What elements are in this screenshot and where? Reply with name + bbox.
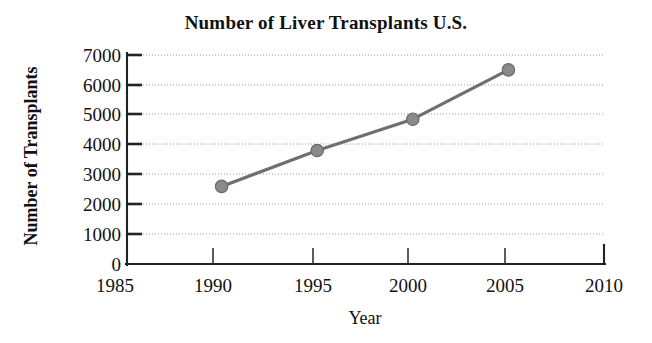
gridlines <box>140 55 604 234</box>
x-tick-marks <box>213 248 505 264</box>
data-point-2000 <box>407 113 419 125</box>
y-tick-marks <box>127 55 142 234</box>
y-tick-label-0: 0 <box>112 254 122 275</box>
y-tick-label-2000: 2000 <box>83 194 121 215</box>
x-tick-label-2010: 2010 <box>585 275 623 296</box>
y-tick-label-5000: 5000 <box>83 104 121 125</box>
data-point-2005 <box>502 64 514 76</box>
chart-figure: Number of Liver Transplants U.S. Number … <box>0 0 652 343</box>
x-tick-labels: 1985 1990 1995 2000 2005 2010 <box>96 275 623 296</box>
y-tick-label-7000: 7000 <box>83 45 121 66</box>
data-point-1995 <box>311 144 323 156</box>
x-tick-label-1995: 1995 <box>294 275 332 296</box>
y-tick-label-6000: 6000 <box>83 75 121 96</box>
x-tick-label-1990: 1990 <box>194 275 232 296</box>
y-tick-label-1000: 1000 <box>83 224 121 245</box>
plot-area: 7000 6000 5000 4000 3000 2000 1000 0 198… <box>0 0 652 343</box>
x-tick-label-2000: 2000 <box>389 275 427 296</box>
data-point-1990 <box>215 180 227 192</box>
x-tick-label-2005: 2005 <box>486 275 524 296</box>
y-tick-labels: 7000 6000 5000 4000 3000 2000 1000 0 <box>83 45 121 275</box>
x-tick-label-1985: 1985 <box>96 275 134 296</box>
y-tick-label-4000: 4000 <box>83 134 121 155</box>
y-tick-label-3000: 3000 <box>83 164 121 185</box>
series-line-liver-transplants <box>222 70 509 186</box>
